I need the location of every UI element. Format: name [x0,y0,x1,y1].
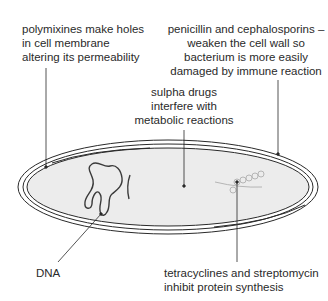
label-dna: DNA [36,266,60,280]
label-tetracyclines: tetracyclines and streptomycin inhibit p… [164,266,319,294]
cell-membrane [27,148,309,226]
label-sulpha: sulpha drugs interfere with metabolic re… [130,85,238,127]
label-penicillin: penicillin and cephalosporins – weaken t… [165,22,327,78]
label-polymixines: polymixines make holes in cell membrane … [22,22,144,64]
